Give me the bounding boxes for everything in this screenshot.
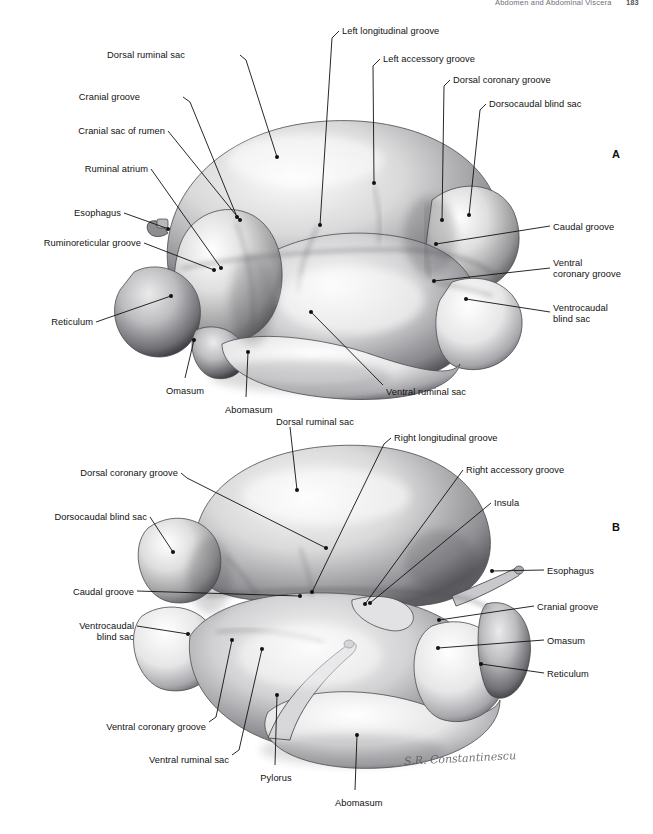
leader-endpoint-dot [219, 266, 223, 270]
callout-label: Caudal groove [553, 222, 614, 233]
leader-endpoint-dot [309, 310, 313, 314]
callout-label: Reticulum [51, 317, 93, 328]
leader-endpoint-dot [298, 594, 302, 598]
callout-label: Left longitudinal groove [342, 26, 439, 37]
leader-endpoint-dot [436, 646, 440, 650]
callout-label: Cranial groove [79, 92, 140, 103]
leader-endpoint-dot [432, 279, 436, 283]
leader-endpoint-dot [192, 338, 196, 342]
callout-label: Cranial sac of rumen [78, 126, 165, 137]
callout-label: Reticulum [547, 669, 589, 680]
callout-label: Omasum [165, 386, 205, 397]
figure-page: Abdomen and Abdominal Viscera 183 [0, 0, 653, 834]
callout-label: Dorsocaudal blind sac [54, 512, 147, 523]
leader-endpoint-dot [186, 632, 190, 636]
callout-label: Right accessory groove [466, 465, 564, 476]
callout-label: Ruminoreticular groove [44, 238, 141, 249]
callout-label: Dorsocaudal blind sac [489, 99, 582, 110]
leader-endpoint-dot [440, 218, 444, 222]
leader-endpoint-dot [275, 693, 279, 697]
leader-endpoint-dot [171, 550, 175, 554]
leader-endpoint-dot [275, 155, 279, 159]
panel-a-illustration [115, 121, 523, 400]
callout-label: Caudal groove [73, 587, 134, 598]
leader-endpoint-dot [318, 223, 322, 227]
leader-endpoint-dot [238, 218, 242, 222]
callout-label: Insula [494, 498, 519, 509]
panel-letter-a: A [612, 148, 620, 160]
leader-endpoint-dot [166, 227, 170, 231]
leader-endpoint-dot [479, 662, 483, 666]
leader-endpoint-dot [169, 294, 173, 298]
leader-endpoint-dot [368, 601, 372, 605]
callout-label: Pylorus [256, 773, 296, 784]
leader-endpoint-dot [372, 181, 376, 185]
leader-endpoint-dot [355, 733, 359, 737]
callout-label: Ventrocaudal blind sac [553, 303, 608, 324]
leader-endpoint-dot [246, 350, 250, 354]
leader-line [492, 570, 544, 571]
leader-endpoint-dot [260, 647, 264, 651]
leader-endpoint-dot [467, 213, 471, 217]
leader-endpoint-dot [230, 638, 234, 642]
leader-endpoint-dot [310, 590, 314, 594]
leader-endpoint-dot [212, 268, 216, 272]
callout-label: Ventral ruminal sac [149, 755, 229, 766]
leader-endpoint-dot [363, 602, 367, 606]
callout-label: Dorsal ruminal sac [107, 50, 185, 61]
leader-endpoint-dot [464, 297, 468, 301]
callout-label: Dorsal coronary groove [80, 468, 178, 479]
callout-label: Omasum [547, 636, 585, 647]
callout-label: Cranial groove [537, 602, 598, 613]
callout-label: Abomasum [335, 798, 375, 809]
leader-endpoint-dot [324, 546, 328, 550]
leader-endpoint-dot [490, 569, 494, 573]
callout-label: Esophagus [74, 208, 121, 219]
callout-label: Right longitudinal groove [394, 433, 498, 444]
leader-endpoint-dot [434, 242, 438, 246]
panel-letter-b: B [612, 521, 620, 533]
callout-label: Abomasum [225, 405, 265, 416]
leader-endpoint-dot [437, 618, 441, 622]
panel-b-illustration [134, 445, 531, 768]
callout-label: Dorsal coronary groove [453, 75, 551, 86]
callout-label: Ventral ruminal sac [386, 387, 466, 398]
callout-label: Esophagus [547, 566, 594, 577]
callout-label: Left accessory groove [383, 54, 475, 65]
callout-label: Ruminal atrium [85, 164, 148, 175]
callout-label: Ventral coronary groove [553, 258, 621, 279]
leader-endpoint-dot [295, 488, 299, 492]
callout-label: Dorsal ruminal sac [276, 417, 354, 428]
callout-label: Ventral coronary groove [106, 722, 206, 733]
callout-label: Ventrocaudal blind sac [79, 621, 134, 642]
